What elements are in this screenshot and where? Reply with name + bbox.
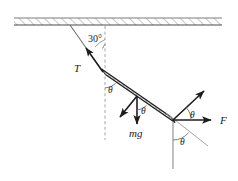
rigid-rod xyxy=(102,69,176,123)
label-theta-rod-mid: θ xyxy=(141,106,146,116)
ceiling-hatching xyxy=(14,18,222,25)
angle-arc-30 xyxy=(103,44,106,48)
label-tension: T xyxy=(74,62,81,74)
ceiling-support xyxy=(14,18,222,25)
label-force: F xyxy=(219,114,227,126)
incline-reference-line xyxy=(166,113,208,146)
label-weight: mg xyxy=(129,127,143,139)
label-theta-force-upper: θ xyxy=(190,110,195,120)
label-angle-ceiling: 30° xyxy=(88,33,102,44)
label-theta-force-lower: θ xyxy=(180,137,185,147)
reaction-vector xyxy=(173,91,204,120)
physics-diagram-canvas: 30° T θ θ mg θ θ F xyxy=(0,0,238,181)
free-body-diagram: 30° T θ θ mg θ θ F xyxy=(0,0,238,181)
tension-arrow xyxy=(86,48,103,72)
label-theta-rod-top: θ xyxy=(108,85,113,95)
perpendicular-component-vector xyxy=(120,96,137,117)
